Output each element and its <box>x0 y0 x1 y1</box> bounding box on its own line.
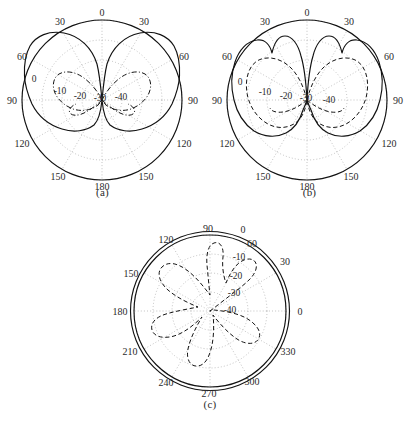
angle-label-b-l150: 150 <box>256 171 271 182</box>
angle-label-c-90: 90 <box>203 223 213 234</box>
figure-antenna-patterns: 0 30 60 90 120 150 180 150 120 90 60 30 … <box>0 0 417 423</box>
angle-label-c-0-right: 0 <box>298 306 303 317</box>
angle-label-a-r150: 150 <box>139 171 154 182</box>
radial-label-b-0: 0 <box>238 77 243 87</box>
angle-label-a-r90: 90 <box>188 95 198 106</box>
polar-plot-a: 0 30 60 90 120 150 180 150 120 90 60 30 … <box>0 0 205 190</box>
radial-label-b-30: -30 <box>300 93 313 103</box>
polar-plot-c: 0 30 60 90 120 150 180 210 240 270 300 3… <box>104 215 316 423</box>
angle-label-c-180: 180 <box>113 306 128 317</box>
radial-label-a-30: -30 <box>94 93 107 103</box>
angle-label-b-l60: 60 <box>222 51 232 62</box>
angle-label-c-240: 240 <box>159 377 174 388</box>
curve-co-pol-b <box>232 36 382 136</box>
polar-plot-a-svg: 0 30 60 90 120 150 180 150 120 90 60 30 … <box>0 0 205 190</box>
angle-label-a-l150: 150 <box>51 171 66 182</box>
angle-label-a-l120: 120 <box>15 138 30 149</box>
radial-label-a-0: 0 <box>32 74 37 84</box>
radial-label-a-40: -40 <box>115 92 128 102</box>
angle-label-b-r90: 90 <box>393 95 403 106</box>
curve-cross-pol-b-right <box>307 58 368 128</box>
polar-plot-b: 0 30 60 90 120 150 180 150 120 90 60 30 … <box>207 0 412 190</box>
angle-label-a-top: 0 <box>100 7 105 18</box>
radial-label-b-40: -40 <box>323 95 336 105</box>
radial-label-c-30: -30 <box>228 288 241 298</box>
caption-a: (a) <box>0 186 205 198</box>
caption-c: (c) <box>104 398 316 410</box>
angle-label-b-r120: 120 <box>382 138 397 149</box>
caption-b: (b) <box>207 186 412 198</box>
angle-label-c-150: 150 <box>124 268 139 279</box>
radial-label-b-10: -10 <box>259 87 272 97</box>
angle-label-c-30: 30 <box>280 256 290 267</box>
radial-label-c-20: -20 <box>230 271 243 281</box>
radial-label-c-40: -40 <box>224 305 237 315</box>
angle-label-b-l30: 30 <box>260 16 270 27</box>
angle-label-c-210: 210 <box>123 346 138 357</box>
curve-cross-pol-b-left <box>246 58 307 128</box>
angle-label-c-300: 300 <box>245 376 260 387</box>
radial-label-a-10: -10 <box>54 86 67 96</box>
angle-label-b-l120: 120 <box>220 138 235 149</box>
angle-label-b-r150: 150 <box>344 171 359 182</box>
angle-label-a-r60: 60 <box>179 51 189 62</box>
angle-label-a-l60: 60 <box>17 51 27 62</box>
polar-plot-c-svg: 0 30 60 90 120 150 180 210 240 270 300 3… <box>104 215 316 423</box>
angle-label-a-r30: 30 <box>139 16 149 27</box>
angle-label-b-top: 0 <box>305 7 310 18</box>
radial-labels-c: -10 -20 -30 -40 <box>224 252 246 315</box>
angle-label-b-l90: 90 <box>212 95 222 106</box>
angle-label-b-r60: 60 <box>384 51 394 62</box>
polar-plot-b-svg: 0 30 60 90 120 150 180 150 120 90 60 30 … <box>207 0 412 190</box>
angle-label-c-330: 330 <box>281 346 296 357</box>
radial-labels-a: 0 -10 -20 -30 -40 <box>32 74 128 103</box>
angle-label-a-r120: 120 <box>177 138 192 149</box>
radial-label-b-20: -20 <box>280 91 293 101</box>
angle-label-a-l90: 90 <box>7 95 17 106</box>
angle-label-c-0: 0 <box>241 224 246 235</box>
radial-labels-b: 0 -10 -20 -30 -40 <box>238 77 336 105</box>
angle-label-c-60: 60 <box>247 238 257 249</box>
angle-label-b-r30: 30 <box>344 16 354 27</box>
radial-label-c-10: -10 <box>233 252 246 262</box>
radial-label-a-20: -20 <box>74 91 87 101</box>
angle-label-c-120: 120 <box>159 234 174 245</box>
angle-label-a-l30: 30 <box>55 16 65 27</box>
